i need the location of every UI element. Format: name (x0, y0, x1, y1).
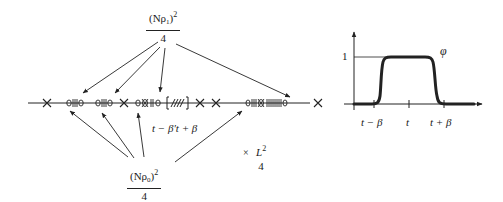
scale-fraction: L2 4 (253, 142, 269, 173)
scale-denominator: 4 (253, 160, 269, 173)
phi-label: φ (440, 44, 447, 59)
phi-curve (354, 57, 474, 104)
scale-numerator: L2 (253, 142, 269, 159)
diagram-canvas (0, 0, 503, 202)
bottom-fraction-numerator: (Nρ0)2 (127, 166, 161, 187)
times-sign: × (243, 147, 249, 158)
top-arrows (83, 42, 290, 97)
top-fraction-denominator: 4 (146, 32, 180, 45)
y-tick-one: 1 (342, 50, 348, 62)
x-tick-t: t (406, 116, 409, 128)
phi-chart (344, 32, 482, 110)
bottom-arrows (70, 111, 242, 162)
bottom-fraction: (Nρ0)2 4 (127, 166, 161, 202)
top-fraction-numerator: (Nρ1)2 (146, 8, 180, 29)
fraction-bar (127, 188, 161, 189)
interval-label: t − β′t + β (152, 122, 197, 134)
x-tick-t-minus-beta: t − β (361, 116, 382, 128)
top-fraction: (Nρ1)2 4 (146, 8, 180, 45)
fraction-bar (146, 30, 180, 31)
bottom-fraction-denominator: 4 (127, 190, 161, 202)
x-tick-t-plus-beta: t + β (430, 116, 451, 128)
